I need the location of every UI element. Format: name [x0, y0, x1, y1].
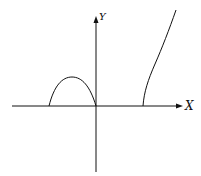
- branch-curve: [143, 10, 176, 106]
- graph: X Y: [0, 0, 201, 176]
- x-axis-label: X: [184, 99, 194, 113]
- arch-curve: [49, 77, 96, 106]
- y-axis-arrow-icon: [94, 16, 99, 23]
- x-axis-arrow-icon: [176, 104, 183, 109]
- y-axis-label: Y: [99, 11, 107, 22]
